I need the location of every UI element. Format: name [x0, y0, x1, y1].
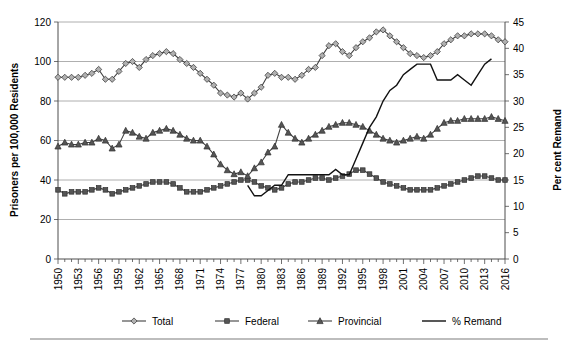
data-point-marker	[218, 184, 223, 189]
x-tick-label: 1968	[174, 268, 185, 291]
x-tick-label: 1965	[154, 268, 165, 291]
data-point-marker	[225, 319, 230, 324]
data-point-marker	[300, 180, 305, 185]
data-point-marker	[184, 190, 189, 195]
x-tick-label: 1959	[113, 268, 124, 291]
x-tick-label: 1998	[378, 268, 389, 291]
y2-tick-label: 5	[513, 227, 519, 238]
x-tick-label: 1950	[53, 268, 64, 291]
y-axis-title: Prisoners per 100,000 Residents	[9, 63, 20, 217]
data-point-marker	[327, 178, 332, 183]
x-tick-label: 1953	[73, 268, 84, 291]
data-point-marker	[205, 188, 210, 193]
data-point-marker	[476, 174, 481, 179]
data-point-marker	[144, 182, 149, 187]
data-point-marker	[56, 188, 61, 193]
data-point-marker	[178, 186, 183, 191]
y2-tick-label: 25	[513, 122, 525, 133]
data-point-marker	[421, 188, 426, 193]
data-point-marker	[401, 186, 406, 191]
x-tick-label: 2004	[418, 268, 429, 291]
data-point-marker	[232, 180, 237, 185]
y2-tick-label: 20	[513, 148, 525, 159]
y2-tick-label: 30	[513, 96, 525, 107]
data-point-marker	[137, 184, 142, 189]
x-tick-label: 1977	[235, 268, 246, 291]
data-point-marker	[130, 186, 135, 191]
data-point-marker	[96, 186, 101, 191]
data-point-marker	[415, 188, 420, 193]
data-point-marker	[272, 188, 277, 193]
data-point-marker	[394, 184, 399, 189]
y2-tick-label: 10	[513, 201, 525, 212]
data-point-marker	[367, 172, 372, 177]
data-point-marker	[360, 168, 365, 173]
data-point-marker	[90, 188, 95, 193]
data-point-marker	[252, 180, 257, 185]
data-point-marker	[117, 190, 122, 195]
data-point-marker	[164, 180, 169, 185]
data-point-marker	[313, 176, 318, 181]
y2-tick-label: 40	[513, 43, 525, 54]
data-point-marker	[151, 180, 156, 185]
data-point-marker	[388, 182, 393, 187]
data-point-marker	[171, 182, 176, 187]
x-tick-label: 1956	[93, 268, 104, 291]
data-point-marker	[489, 176, 494, 181]
data-point-marker	[435, 186, 440, 191]
x-tick-label: 1983	[276, 268, 287, 291]
data-point-marker	[259, 184, 264, 189]
legend-label: Total	[152, 316, 173, 327]
data-point-marker	[320, 176, 325, 181]
y2-axis-title: Per cent Remand	[552, 109, 563, 191]
y2-tick-label: 0	[513, 254, 519, 265]
data-point-marker	[496, 178, 501, 183]
data-point-marker	[374, 176, 379, 181]
chart-background	[0, 0, 578, 348]
y-tick-label: 0	[45, 254, 51, 265]
data-point-marker	[286, 182, 291, 187]
data-point-marker	[503, 178, 508, 183]
data-point-marker	[381, 180, 386, 185]
chart-figure: 020406080100120 051015202530354045 19501…	[0, 0, 578, 348]
data-point-marker	[62, 192, 67, 197]
data-point-marker	[482, 174, 487, 179]
x-tick-label: 1980	[256, 268, 267, 291]
x-tick-label: 2007	[439, 268, 450, 291]
data-point-marker	[191, 190, 196, 195]
x-tick-label: 2016	[500, 268, 511, 291]
data-point-marker	[462, 178, 467, 183]
data-point-marker	[103, 188, 108, 193]
data-point-marker	[83, 190, 88, 195]
x-tick-label: 1971	[195, 268, 206, 291]
legend-label: Federal	[245, 316, 279, 327]
x-tick-label: 1992	[337, 268, 348, 291]
x-tick-label: 2013	[479, 268, 490, 291]
x-tick-label: 2001	[398, 268, 409, 291]
data-point-marker	[455, 180, 460, 185]
y-tick-label: 80	[40, 96, 52, 107]
data-point-marker	[442, 184, 447, 189]
data-point-marker	[279, 186, 284, 191]
chart-canvas: 020406080100120 051015202530354045 19501…	[0, 0, 578, 348]
data-point-marker	[76, 190, 81, 195]
legend-label: % Remand	[452, 316, 501, 327]
y-tick-label: 120	[34, 17, 51, 28]
x-tick-label: 1962	[134, 268, 145, 291]
x-tick-label: 1989	[317, 268, 328, 291]
y2-tick-label: 15	[513, 175, 525, 186]
data-point-marker	[239, 178, 244, 183]
data-point-marker	[110, 192, 115, 197]
data-point-marker	[449, 182, 454, 187]
y-tick-label: 100	[34, 56, 51, 67]
data-point-marker	[157, 180, 162, 185]
x-tick-label: 1995	[357, 268, 368, 291]
data-point-marker	[69, 190, 74, 195]
data-point-marker	[354, 168, 359, 173]
x-tick-label: 1986	[296, 268, 307, 291]
y2-tick-label: 35	[513, 69, 525, 80]
data-point-marker	[428, 188, 433, 193]
x-tick-label: 2010	[459, 268, 470, 291]
legend-label: Provincial	[338, 316, 381, 327]
data-point-marker	[225, 182, 230, 187]
